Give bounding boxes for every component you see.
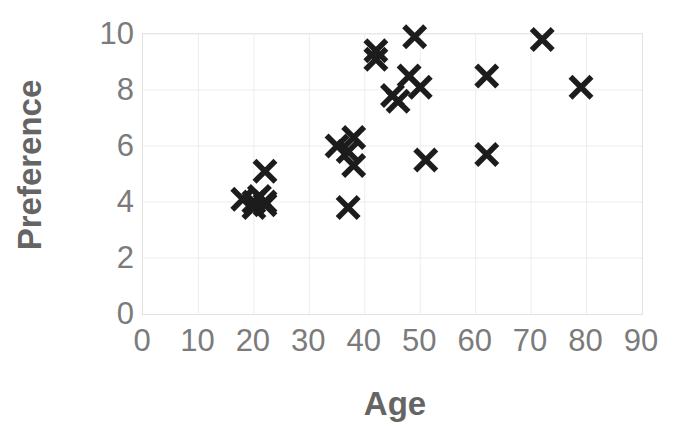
x-tick-label: 70: [500, 325, 560, 356]
y-axis-tick-labels: 0246810: [56, 0, 134, 340]
data-point-marker: [476, 66, 497, 87]
plot-area: [142, 33, 643, 315]
y-tick-label: 4: [90, 186, 134, 217]
x-tick-label: 90: [611, 325, 671, 356]
scatter-chart: Preference 0246810 0102030405060708090 A…: [0, 0, 687, 448]
data-point-marker: [254, 161, 275, 182]
x-axis-title: Age: [142, 385, 648, 423]
y-tick-label: 8: [90, 74, 134, 105]
x-axis-tick-labels: 0102030405060708090: [0, 325, 687, 373]
x-tick-label: 0: [112, 325, 172, 356]
data-point-marker: [338, 197, 359, 218]
data-point-marker: [476, 144, 497, 165]
x-tick-label: 30: [278, 325, 338, 356]
y-tick-label: 2: [90, 242, 134, 273]
x-tick-label: 50: [389, 325, 449, 356]
data-point-marker: [404, 26, 425, 47]
x-tick-label: 80: [556, 325, 616, 356]
y-axis-title-text: Preference: [11, 80, 49, 251]
x-tick-label: 10: [167, 325, 227, 356]
y-tick-label: 6: [90, 130, 134, 161]
x-tick-label: 20: [223, 325, 283, 356]
x-tick-label: 40: [334, 325, 394, 356]
y-tick-label: 0: [90, 298, 134, 329]
data-point-marker: [571, 77, 592, 98]
data-point-marker: [532, 29, 553, 50]
y-tick-label: 10: [90, 18, 134, 49]
y-axis-title: Preference: [0, 0, 60, 330]
plot-canvas: [143, 34, 642, 314]
x-tick-label: 60: [445, 325, 505, 356]
data-point-marker: [415, 150, 436, 171]
